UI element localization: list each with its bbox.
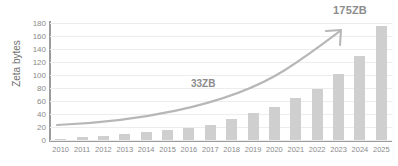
- bar-2021[interactable]: [290, 98, 301, 140]
- bar-2017[interactable]: [205, 125, 216, 140]
- bar-2015[interactable]: [162, 130, 173, 140]
- y-tick-label: 180: [20, 19, 46, 28]
- y-tick-label: 60: [20, 97, 46, 106]
- y-axis-tick-labels: 020406080100120140160180: [16, 23, 46, 140]
- bar-2014[interactable]: [141, 132, 152, 140]
- x-tick-label-2023: 2023: [330, 145, 347, 154]
- x-tick-label-2011: 2011: [74, 145, 90, 154]
- chart-figure: 175ZB Zeta bytes 02040608010012014016018…: [0, 0, 398, 166]
- bar-2022[interactable]: [312, 89, 323, 140]
- y-tick-label: 40: [20, 110, 46, 119]
- bar-2018[interactable]: [226, 119, 237, 140]
- bar-2023[interactable]: [333, 74, 344, 140]
- gridline: [50, 62, 392, 63]
- x-tick-label-2016: 2016: [181, 145, 198, 154]
- bar-2025[interactable]: [376, 26, 387, 140]
- x-tick-label-2017: 2017: [202, 145, 219, 154]
- x-tick-label-2021: 2021: [287, 145, 304, 154]
- gridline: [50, 49, 392, 50]
- x-tick-label-2019: 2019: [245, 145, 262, 154]
- x-tick-label-2022: 2022: [309, 145, 326, 154]
- bar-2010[interactable]: [55, 139, 66, 140]
- y-tick-label: 0: [20, 136, 46, 145]
- gridline: [50, 140, 392, 141]
- gridline: [50, 36, 392, 37]
- bar-2012[interactable]: [98, 136, 109, 140]
- bar-2019[interactable]: [248, 113, 259, 140]
- x-tick-label-2018: 2018: [223, 145, 240, 154]
- y-tick-label: 100: [20, 71, 46, 80]
- bar-2024[interactable]: [354, 56, 365, 141]
- bar-2016[interactable]: [183, 128, 194, 140]
- bar-2020[interactable]: [269, 107, 280, 140]
- x-tick-label-2015: 2015: [159, 145, 176, 154]
- x-tick-label-2013: 2013: [116, 145, 133, 154]
- y-tick-label: 20: [20, 123, 46, 132]
- midpoint-annotation-33zb: 33ZB: [191, 78, 215, 89]
- x-tick-label-2010: 2010: [52, 145, 69, 154]
- y-tick-label: 80: [20, 84, 46, 93]
- x-tick-label-2020: 2020: [266, 145, 283, 154]
- x-tick-label-2014: 2014: [138, 145, 155, 154]
- y-tick-label: 140: [20, 45, 46, 54]
- y-tick-label: 160: [20, 32, 46, 41]
- gridline: [50, 23, 392, 24]
- plot-area: [50, 23, 392, 140]
- bar-2013[interactable]: [119, 134, 130, 140]
- x-tick-label-2024: 2024: [352, 145, 369, 154]
- bar-2011[interactable]: [77, 137, 88, 140]
- endpoint-annotation-175zb: 175ZB: [333, 4, 367, 16]
- y-tick-label: 120: [20, 58, 46, 67]
- x-tick-label-2012: 2012: [95, 145, 112, 154]
- x-tick-label-2025: 2025: [373, 145, 390, 154]
